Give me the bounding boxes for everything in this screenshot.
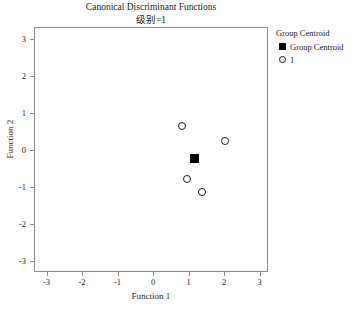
y-axis-tick — [30, 261, 34, 262]
legend-swatch — [276, 56, 288, 63]
y-axis-tick — [30, 113, 34, 114]
legend-item[interactable]: Group Centroid — [276, 40, 352, 53]
y-axis-tick-label: 2 — [4, 70, 26, 82]
legend-item[interactable]: 1 — [276, 53, 352, 66]
chart-legend: Group Centroid Group Centroid1 — [276, 28, 352, 66]
x-axis-tick — [82, 272, 83, 276]
x-axis-tick — [260, 272, 261, 276]
page-title: Canonical Discriminant Functions — [34, 1, 268, 14]
open-circle-icon — [279, 56, 286, 63]
legend-swatch — [276, 43, 288, 50]
x-axis-tick — [153, 272, 154, 276]
y-axis-tick-label: -2 — [4, 218, 26, 230]
x-axis-tick-label: -2 — [70, 277, 94, 287]
legend-title: Group Centroid — [276, 28, 352, 38]
legend-item-label: Group Centroid — [290, 42, 344, 52]
scatter-chart-figure: Canonical Discriminant Functions 级别=1 -3… — [0, 0, 354, 311]
x-axis-label: Function 1 — [34, 291, 268, 301]
plot-frame — [34, 27, 268, 272]
legend-item-label: 1 — [290, 55, 294, 65]
y-axis-tick — [30, 39, 34, 40]
filled-square-icon — [279, 43, 286, 50]
y-axis-tick — [30, 224, 34, 225]
y-axis-tick — [30, 150, 34, 151]
x-axis-tick-label: -1 — [106, 277, 130, 287]
data-point-marker — [198, 188, 206, 196]
x-axis-tick-label: 3 — [248, 277, 272, 287]
y-axis-tick — [30, 76, 34, 77]
legend-entries: Group Centroid1 — [276, 40, 352, 66]
y-axis-tick — [30, 187, 34, 188]
y-axis-tick-label: -1 — [4, 181, 26, 193]
data-point-marker — [221, 137, 229, 145]
x-axis-tick-label: 2 — [212, 277, 236, 287]
y-axis-label: Function 2 — [5, 109, 15, 169]
x-axis-tick-label: 0 — [141, 277, 165, 287]
x-axis-tick — [189, 272, 190, 276]
centroid-marker — [190, 154, 199, 163]
x-axis-tick-label: -3 — [35, 277, 59, 287]
data-point-marker — [183, 175, 191, 183]
x-axis-tick — [118, 272, 119, 276]
chart-subtitle: 级别=1 — [34, 14, 268, 27]
x-axis-tick — [224, 272, 225, 276]
chart-title-block: Canonical Discriminant Functions 级别=1 — [34, 1, 268, 27]
y-axis-tick-label: 3 — [4, 33, 26, 45]
data-point-marker — [178, 122, 186, 130]
plot-area — [35, 28, 267, 271]
x-axis-tick-label: 1 — [177, 277, 201, 287]
y-axis-tick-label: -3 — [4, 255, 26, 267]
x-axis-tick — [47, 272, 48, 276]
